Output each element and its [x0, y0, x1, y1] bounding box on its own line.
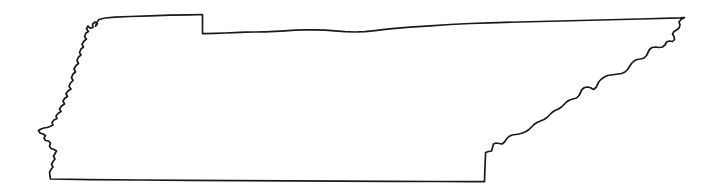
- tennessee-outline-map: Tennessee State Outline Map: [0, 0, 717, 193]
- map-background: [0, 0, 717, 193]
- map-figure: Tennessee State Outline Map: [0, 0, 717, 193]
